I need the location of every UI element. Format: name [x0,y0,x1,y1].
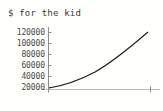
y-tick-label: 80000 [21,51,45,59]
y-tick-label: 20000 [21,84,45,92]
y-tick-label: 40000 [21,73,45,81]
chart-screenshot: $ for the kid 120000 100000 80000 60000 … [0,0,163,111]
y-tick-label: 60000 [21,62,45,70]
y-tick-label: 120000 [17,29,45,37]
y-axis-tick-labels: 120000 100000 80000 60000 40000 20000 [0,24,45,111]
data-series-line [49,32,148,88]
plot-area: 120000 100000 80000 60000 40000 20000 [0,24,163,111]
page-title: $ for the kid [8,8,81,19]
y-tick-label: 100000 [17,40,45,48]
